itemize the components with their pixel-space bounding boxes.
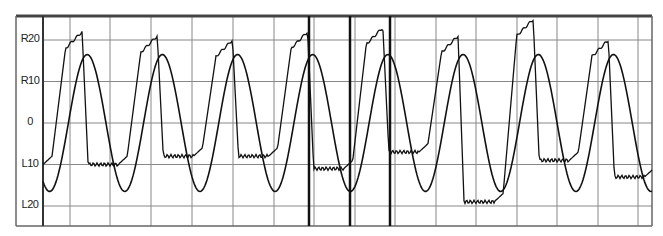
y-label-zero: 0 bbox=[17, 115, 43, 127]
y-label-r10: R10 bbox=[17, 74, 43, 86]
plot-area bbox=[0, 0, 663, 236]
response-series bbox=[43, 21, 652, 204]
y-label-r20: R20 bbox=[17, 32, 43, 44]
nystagmus-tracking-chart: R20 R10 0 L10 L20 bbox=[0, 0, 663, 236]
y-label-l10: L10 bbox=[17, 157, 43, 169]
y-label-l20: L20 bbox=[17, 198, 43, 210]
